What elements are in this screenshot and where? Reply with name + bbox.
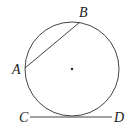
label-d: D: [113, 110, 124, 125]
label-c: C: [19, 110, 29, 125]
center-point: [71, 68, 73, 70]
label-a: A: [11, 62, 21, 77]
geometry-diagram: A B C D: [0, 0, 130, 128]
label-b: B: [79, 5, 88, 20]
chord-ab: [25, 22, 80, 68]
